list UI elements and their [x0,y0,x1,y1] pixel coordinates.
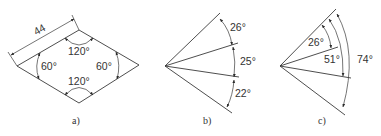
ray-4 [280,66,345,115]
angle-label-left: 60° [41,60,57,72]
ray-4 [165,66,232,113]
dimension-label-44: 44 [31,21,47,37]
angle-label-top: 120° [68,45,90,57]
figure-b: 26° 25° 22° b) [165,13,256,127]
figure-a: 44 120° 120° 60° 60° a) [8,15,139,127]
figure-c: 26° 51° 74° c) [280,9,373,127]
extension-line-top [72,15,79,30]
angle-arc-right [116,52,119,79]
angle-label-right: 60° [96,60,112,72]
caption-c: c) [318,115,326,127]
angle-dimension-diagram: 44 120° 120° 60° 60° a) 26° 25° 22° b) [0,0,381,136]
angle-label-b-1: 26° [230,21,246,33]
angle-arc-left [37,53,40,79]
caption-a: a) [72,115,80,127]
angle-arc-bottom [65,88,93,96]
angle-label-c-1: 26° [308,36,324,48]
angle-arc-22 [227,80,234,107]
angle-arc-25 [233,47,235,77]
angle-label-c-3: 74° [357,53,373,65]
angle-label-b-2: 25° [240,55,256,67]
caption-b: b) [203,115,211,127]
angle-label-b-3: 22° [235,87,251,99]
ray-1 [165,13,220,66]
angle-label-c-2: 51° [324,53,340,65]
angle-arc-top [65,38,93,45]
ray-3 [165,66,239,77]
angle-label-bottom: 120° [68,75,90,87]
ray-3 [280,66,351,78]
ray-2 [165,43,238,66]
